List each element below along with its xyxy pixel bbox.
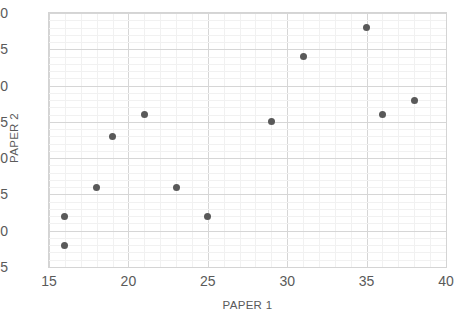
data-point	[363, 24, 370, 31]
data-point	[93, 184, 100, 191]
y-axis-tick-label: 15	[0, 187, 8, 201]
x-axis-title: PAPER 1	[48, 299, 447, 311]
data-point	[379, 111, 386, 118]
y-axis-title: PAPER 2	[8, 88, 20, 188]
x-axis-tick-label: 25	[188, 274, 228, 288]
y-axis-tick-label: 10	[0, 224, 8, 238]
data-point	[109, 133, 116, 140]
data-point	[61, 213, 68, 220]
x-axis-tick-label: 15	[29, 274, 69, 288]
data-point	[173, 184, 180, 191]
x-axis-tick-label: 35	[347, 274, 387, 288]
gridline-major-horizontal	[49, 267, 446, 268]
data-point	[61, 242, 68, 249]
x-axis-tick-label: 20	[108, 274, 148, 288]
y-axis-tick-label: 40	[0, 6, 8, 20]
y-axis-tick-label: 35	[0, 42, 8, 56]
data-point	[204, 213, 211, 220]
scatter-chart: 510152025303540 152025303540 PAPER 1 PAP…	[0, 0, 464, 324]
data-point	[141, 111, 148, 118]
y-axis-tick-label: 20	[0, 151, 8, 165]
y-axis-tick-label: 5	[0, 260, 8, 274]
gridline-major-vertical	[446, 13, 447, 267]
data-point	[268, 118, 275, 125]
y-axis-tick-label: 30	[0, 79, 8, 93]
data-point	[300, 53, 307, 60]
y-axis-tick-label: 25	[0, 115, 8, 129]
data-point	[411, 97, 418, 104]
plot-area	[48, 12, 447, 268]
data-points-layer	[49, 13, 446, 267]
x-axis-tick-label: 30	[267, 274, 307, 288]
x-axis-tick-label: 40	[426, 274, 464, 288]
